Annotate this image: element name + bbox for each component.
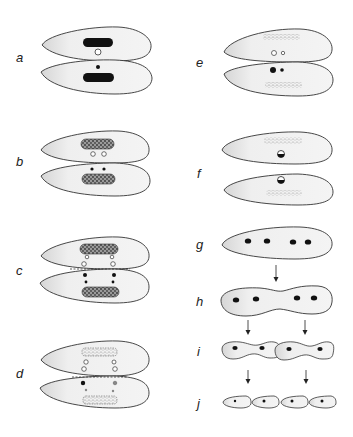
nucleus — [321, 400, 324, 403]
cell-lower — [40, 269, 149, 303]
micronucleus-solid — [81, 381, 85, 385]
micronucleus-open — [82, 367, 87, 372]
nucleus — [264, 238, 270, 243]
nucleus — [233, 298, 239, 303]
macronuclear-fragments — [263, 34, 300, 40]
nucleus — [234, 400, 236, 402]
panel-label-j: j — [195, 396, 201, 411]
daughter-cell — [223, 396, 251, 408]
panel-label-a: a — [16, 50, 23, 65]
panel-c: c — [16, 237, 149, 303]
panel-label-i: i — [197, 344, 201, 359]
nucleus — [291, 400, 294, 403]
micronucleus-open — [91, 152, 96, 157]
panel-b: b — [16, 131, 150, 196]
cell-upper — [222, 132, 332, 164]
macronucleus-granular — [82, 287, 119, 297]
micronucleus-grey — [112, 390, 114, 392]
micronucleus-solid — [112, 273, 116, 277]
micronucleus-solid — [112, 281, 115, 284]
cell-lower — [224, 62, 333, 96]
macronuclear-fragments — [266, 190, 302, 196]
micronucleus-open — [102, 152, 107, 157]
pronucleus-solid — [280, 68, 284, 72]
panel-g: g — [196, 227, 332, 259]
micronucleus-open — [111, 262, 116, 267]
panel-label-h: h — [196, 294, 203, 309]
micronucleus-open — [82, 262, 87, 267]
micronucleus-open — [84, 360, 88, 364]
micronucleus-open — [272, 51, 277, 56]
panel-label-e: e — [196, 55, 203, 70]
panel-label-d: d — [16, 366, 24, 381]
cell — [222, 227, 332, 259]
nucleus — [290, 239, 296, 244]
micronucleus-solid — [85, 281, 88, 284]
macronucleus-granular — [80, 244, 118, 254]
macronucleus-fragmenting — [83, 396, 117, 404]
macronucleus-granular — [81, 139, 114, 149]
panel-i: i — [197, 342, 334, 360]
panel-d: d — [16, 341, 149, 408]
micronucleus-open — [281, 51, 284, 54]
daughter-cell — [252, 396, 279, 408]
panel-label-f: f — [197, 166, 202, 181]
micronucleus-open — [112, 360, 116, 364]
panel-label-g: g — [196, 237, 204, 252]
conjugation-diagram: a b c d — [0, 0, 353, 437]
macronuclear-fragments — [265, 82, 302, 88]
micronucleus-open — [95, 49, 101, 55]
micronucleus-solid — [90, 167, 93, 170]
synkaryon — [278, 151, 285, 158]
nucleus — [232, 346, 237, 350]
constricting-cell — [222, 342, 280, 359]
micronucleus-solid — [96, 65, 100, 69]
micronucleus-open — [85, 255, 89, 259]
macronuclear-fragments — [264, 137, 302, 144]
micronucleus-open — [113, 367, 118, 372]
pronucleus-solid — [270, 67, 276, 73]
constricting-cell — [275, 342, 334, 360]
macronucleus-granular — [82, 174, 115, 184]
panel-a: a — [16, 27, 152, 94]
nucleus — [305, 239, 311, 244]
panel-f: f — [197, 132, 333, 205]
arrow-g-to-h — [274, 265, 279, 282]
arrow-h-to-i-right — [303, 320, 308, 335]
micronucleus-grey — [85, 389, 87, 391]
nucleus — [253, 297, 259, 302]
micronucleus-solid — [102, 167, 105, 170]
arrow-i-to-j-right — [304, 370, 309, 384]
nucleus — [311, 296, 317, 301]
daughter-cell — [281, 396, 308, 408]
micronucleus-solid — [83, 273, 87, 277]
panel-e: e — [196, 29, 333, 96]
nucleus — [286, 347, 291, 351]
macronucleus-fragmenting — [82, 348, 117, 356]
micronucleus-open — [110, 255, 114, 259]
panel-label-b: b — [16, 154, 23, 169]
arrow-h-to-i-left — [246, 320, 251, 335]
nucleus — [317, 347, 322, 351]
synkaryon — [278, 177, 285, 184]
nucleus — [245, 238, 251, 243]
nucleus — [294, 296, 300, 301]
cell-upper — [41, 341, 149, 376]
panel-label-c: c — [16, 263, 23, 278]
micronucleus-grey — [113, 381, 117, 385]
cell-upper — [224, 29, 332, 62]
arrow-i-to-j-left — [246, 370, 251, 384]
panel-h: h — [196, 286, 332, 316]
panel-j: j — [195, 396, 336, 411]
nucleus — [263, 400, 266, 403]
nucleus — [259, 346, 264, 350]
macronucleus — [83, 38, 113, 47]
macronucleus — [83, 73, 114, 82]
